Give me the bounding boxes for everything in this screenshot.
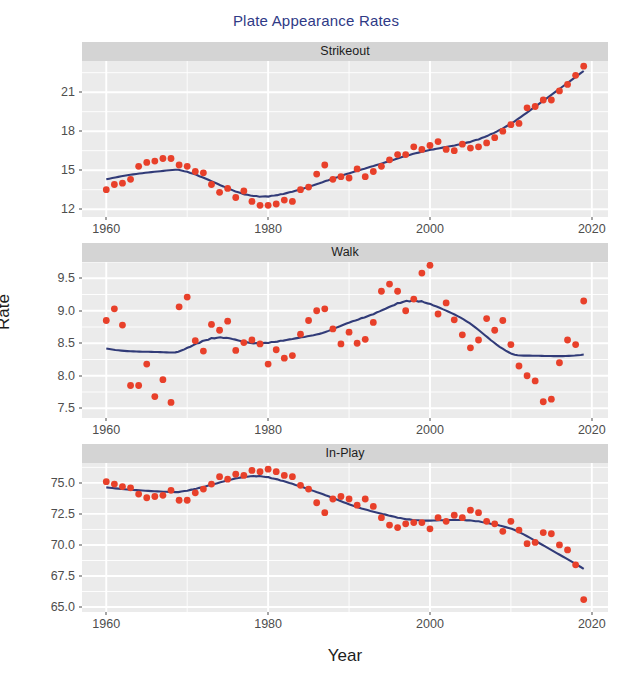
- x-axis-tick-label: 1980: [254, 423, 282, 437]
- data-point: [564, 337, 571, 344]
- data-point: [451, 512, 458, 519]
- data-point: [135, 163, 142, 170]
- data-point: [370, 503, 377, 510]
- data-point: [151, 393, 158, 400]
- data-point: [192, 168, 199, 175]
- data-point: [580, 63, 587, 70]
- data-point: [289, 198, 296, 205]
- data-point: [556, 359, 563, 366]
- smoother-line: [106, 71, 583, 197]
- y-axis-tick-label: 72.5: [51, 507, 75, 521]
- data-point: [435, 138, 442, 145]
- data-point: [151, 493, 158, 500]
- data-point: [443, 300, 450, 307]
- data-point: [297, 331, 304, 338]
- data-point: [346, 329, 353, 336]
- data-point: [111, 481, 118, 488]
- x-axis-tick-mark: [591, 418, 592, 421]
- y-axis-tick-mark: [79, 209, 82, 210]
- data-point: [176, 162, 183, 169]
- data-point: [346, 496, 353, 503]
- data-point: [273, 346, 280, 353]
- data-point: [362, 336, 369, 343]
- data-point: [451, 316, 458, 323]
- data-point: [208, 181, 215, 188]
- x-axis-tick-label: 1960: [92, 617, 120, 631]
- x-axis-tick-mark: [429, 418, 430, 421]
- data-point: [354, 502, 361, 509]
- data-point: [467, 344, 474, 351]
- data-point: [556, 88, 563, 95]
- data-point: [386, 281, 393, 288]
- data-point: [297, 186, 304, 193]
- data-point: [427, 525, 434, 532]
- facet-strip-walk: Walk: [82, 243, 608, 262]
- plot-canvas: [82, 463, 608, 612]
- data-point: [176, 497, 183, 504]
- data-point: [313, 499, 320, 506]
- data-point: [467, 507, 474, 514]
- data-point: [483, 140, 490, 147]
- y-axis-tick-label: 18: [61, 124, 75, 138]
- data-point: [127, 382, 134, 389]
- x-axis-tick-label: 1980: [254, 617, 282, 631]
- data-point: [168, 487, 175, 494]
- data-point: [459, 514, 466, 521]
- data-point: [240, 188, 247, 195]
- data-point: [168, 155, 175, 162]
- y-axis-tick-mark: [79, 482, 82, 483]
- y-axis-tick-label: 8.0: [58, 369, 75, 383]
- data-point: [540, 529, 547, 536]
- x-axis-tick-mark: [106, 612, 107, 615]
- data-point: [257, 468, 264, 475]
- data-point: [516, 120, 523, 127]
- data-point: [524, 372, 531, 379]
- data-point: [216, 473, 223, 480]
- data-point: [572, 561, 579, 568]
- data-point: [346, 175, 353, 182]
- data-point: [564, 547, 571, 554]
- data-point: [362, 496, 369, 503]
- data-point: [475, 509, 482, 516]
- data-point: [580, 596, 587, 603]
- plot-canvas: [82, 262, 608, 418]
- data-point: [507, 121, 514, 128]
- data-point: [281, 355, 288, 362]
- data-point: [532, 378, 539, 385]
- data-point: [160, 155, 167, 162]
- chart-figure: Plate Appearance Rates Rate Year Strikeo…: [0, 0, 632, 684]
- data-point: [499, 128, 506, 135]
- data-point: [402, 307, 409, 314]
- facet-strip-label: Strikeout: [82, 42, 608, 61]
- data-point: [370, 319, 377, 326]
- data-point: [540, 97, 547, 104]
- data-point: [354, 166, 361, 173]
- data-point: [257, 341, 264, 348]
- data-point: [321, 305, 328, 312]
- data-point: [418, 146, 425, 153]
- data-point: [216, 327, 223, 334]
- data-point: [321, 509, 328, 516]
- data-point: [119, 180, 126, 187]
- data-point: [459, 331, 466, 338]
- y-axis-tick-label: 12: [61, 202, 75, 216]
- data-point: [491, 520, 498, 527]
- data-point: [160, 376, 167, 383]
- y-axis-tick-mark: [79, 170, 82, 171]
- y-axis-tick-label: 75.0: [51, 476, 75, 490]
- y-axis-tick-mark: [79, 278, 82, 279]
- data-point: [232, 347, 239, 354]
- data-point: [329, 496, 336, 503]
- y-axis-tick-mark: [79, 408, 82, 409]
- data-point: [475, 337, 482, 344]
- data-point: [548, 97, 555, 104]
- data-point: [305, 486, 312, 493]
- x-axis-tick-label: 2000: [416, 423, 444, 437]
- data-point: [378, 288, 385, 295]
- y-axis-tick-mark: [79, 92, 82, 93]
- data-point: [362, 173, 369, 180]
- y-axis-tick-label: 7.5: [58, 401, 75, 415]
- data-point: [524, 104, 531, 111]
- data-point: [240, 472, 247, 479]
- data-point: [338, 341, 345, 348]
